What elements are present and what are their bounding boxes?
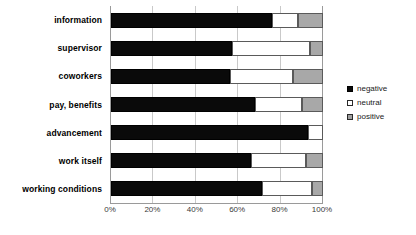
legend-swatch-neutral-icon <box>347 100 353 106</box>
bar-segment-positive <box>310 41 323 56</box>
bar-row <box>111 97 323 112</box>
bar-segment-positive <box>312 181 323 196</box>
chart-legend: negativeneutralpositive <box>347 82 413 124</box>
bar-segment-neutral <box>262 181 313 196</box>
bar-row <box>111 153 323 168</box>
legend-swatch-negative-icon <box>347 86 353 92</box>
category-axis-labels: informationsupervisorcoworkerspay, benef… <box>0 6 106 203</box>
bar-segment-neutral <box>308 125 323 140</box>
legend-label: positive <box>357 112 384 121</box>
x-axis-tick-labels: 0%20%40%60%80%100% <box>110 205 322 223</box>
x-tick-label: 60% <box>217 205 257 214</box>
category-label: pay, benefits <box>0 100 102 110</box>
legend-label: neutral <box>357 98 381 107</box>
bar-segment-positive <box>302 97 323 112</box>
bar-row <box>111 125 323 140</box>
bar-segment-negative <box>111 181 262 196</box>
category-label: information <box>0 15 102 25</box>
bar-segment-positive <box>298 13 323 28</box>
bar-row <box>111 41 323 56</box>
x-tick-label: 20% <box>132 205 172 214</box>
legend-swatch-positive-icon <box>347 114 353 120</box>
category-label: work itself <box>0 156 102 166</box>
bar-segment-neutral <box>251 153 306 168</box>
legend-item-negative: negative <box>347 82 413 95</box>
category-label: supervisor <box>0 43 102 53</box>
bar-segment-negative <box>111 97 255 112</box>
x-tick-label: 100% <box>302 205 342 214</box>
bar-segment-negative <box>111 153 251 168</box>
category-label: advancement <box>0 128 102 138</box>
bar-segment-neutral <box>230 69 294 84</box>
bar-segment-positive <box>293 69 323 84</box>
bar-segment-negative <box>111 125 308 140</box>
category-label: working conditions <box>0 184 102 194</box>
bar-row <box>111 13 323 28</box>
x-tick-label: 0% <box>90 205 130 214</box>
bar-segment-neutral <box>272 13 297 28</box>
legend-item-neutral: neutral <box>347 96 413 109</box>
bar-segment-negative <box>111 13 272 28</box>
x-tick-label: 80% <box>260 205 300 214</box>
bar-row <box>111 69 323 84</box>
bar-segment-positive <box>306 153 323 168</box>
bar-segment-negative <box>111 69 230 84</box>
legend-item-positive: positive <box>347 110 413 123</box>
x-tick-label: 40% <box>175 205 215 214</box>
plot-area <box>110 6 323 204</box>
bar-segment-neutral <box>255 97 302 112</box>
stacked-bar-chart: informationsupervisorcoworkerspay, benef… <box>0 0 416 235</box>
legend-label: negative <box>357 84 387 93</box>
bar-segment-negative <box>111 41 232 56</box>
bar-row <box>111 181 323 196</box>
bar-segment-neutral <box>232 41 310 56</box>
category-label: coworkers <box>0 71 102 81</box>
